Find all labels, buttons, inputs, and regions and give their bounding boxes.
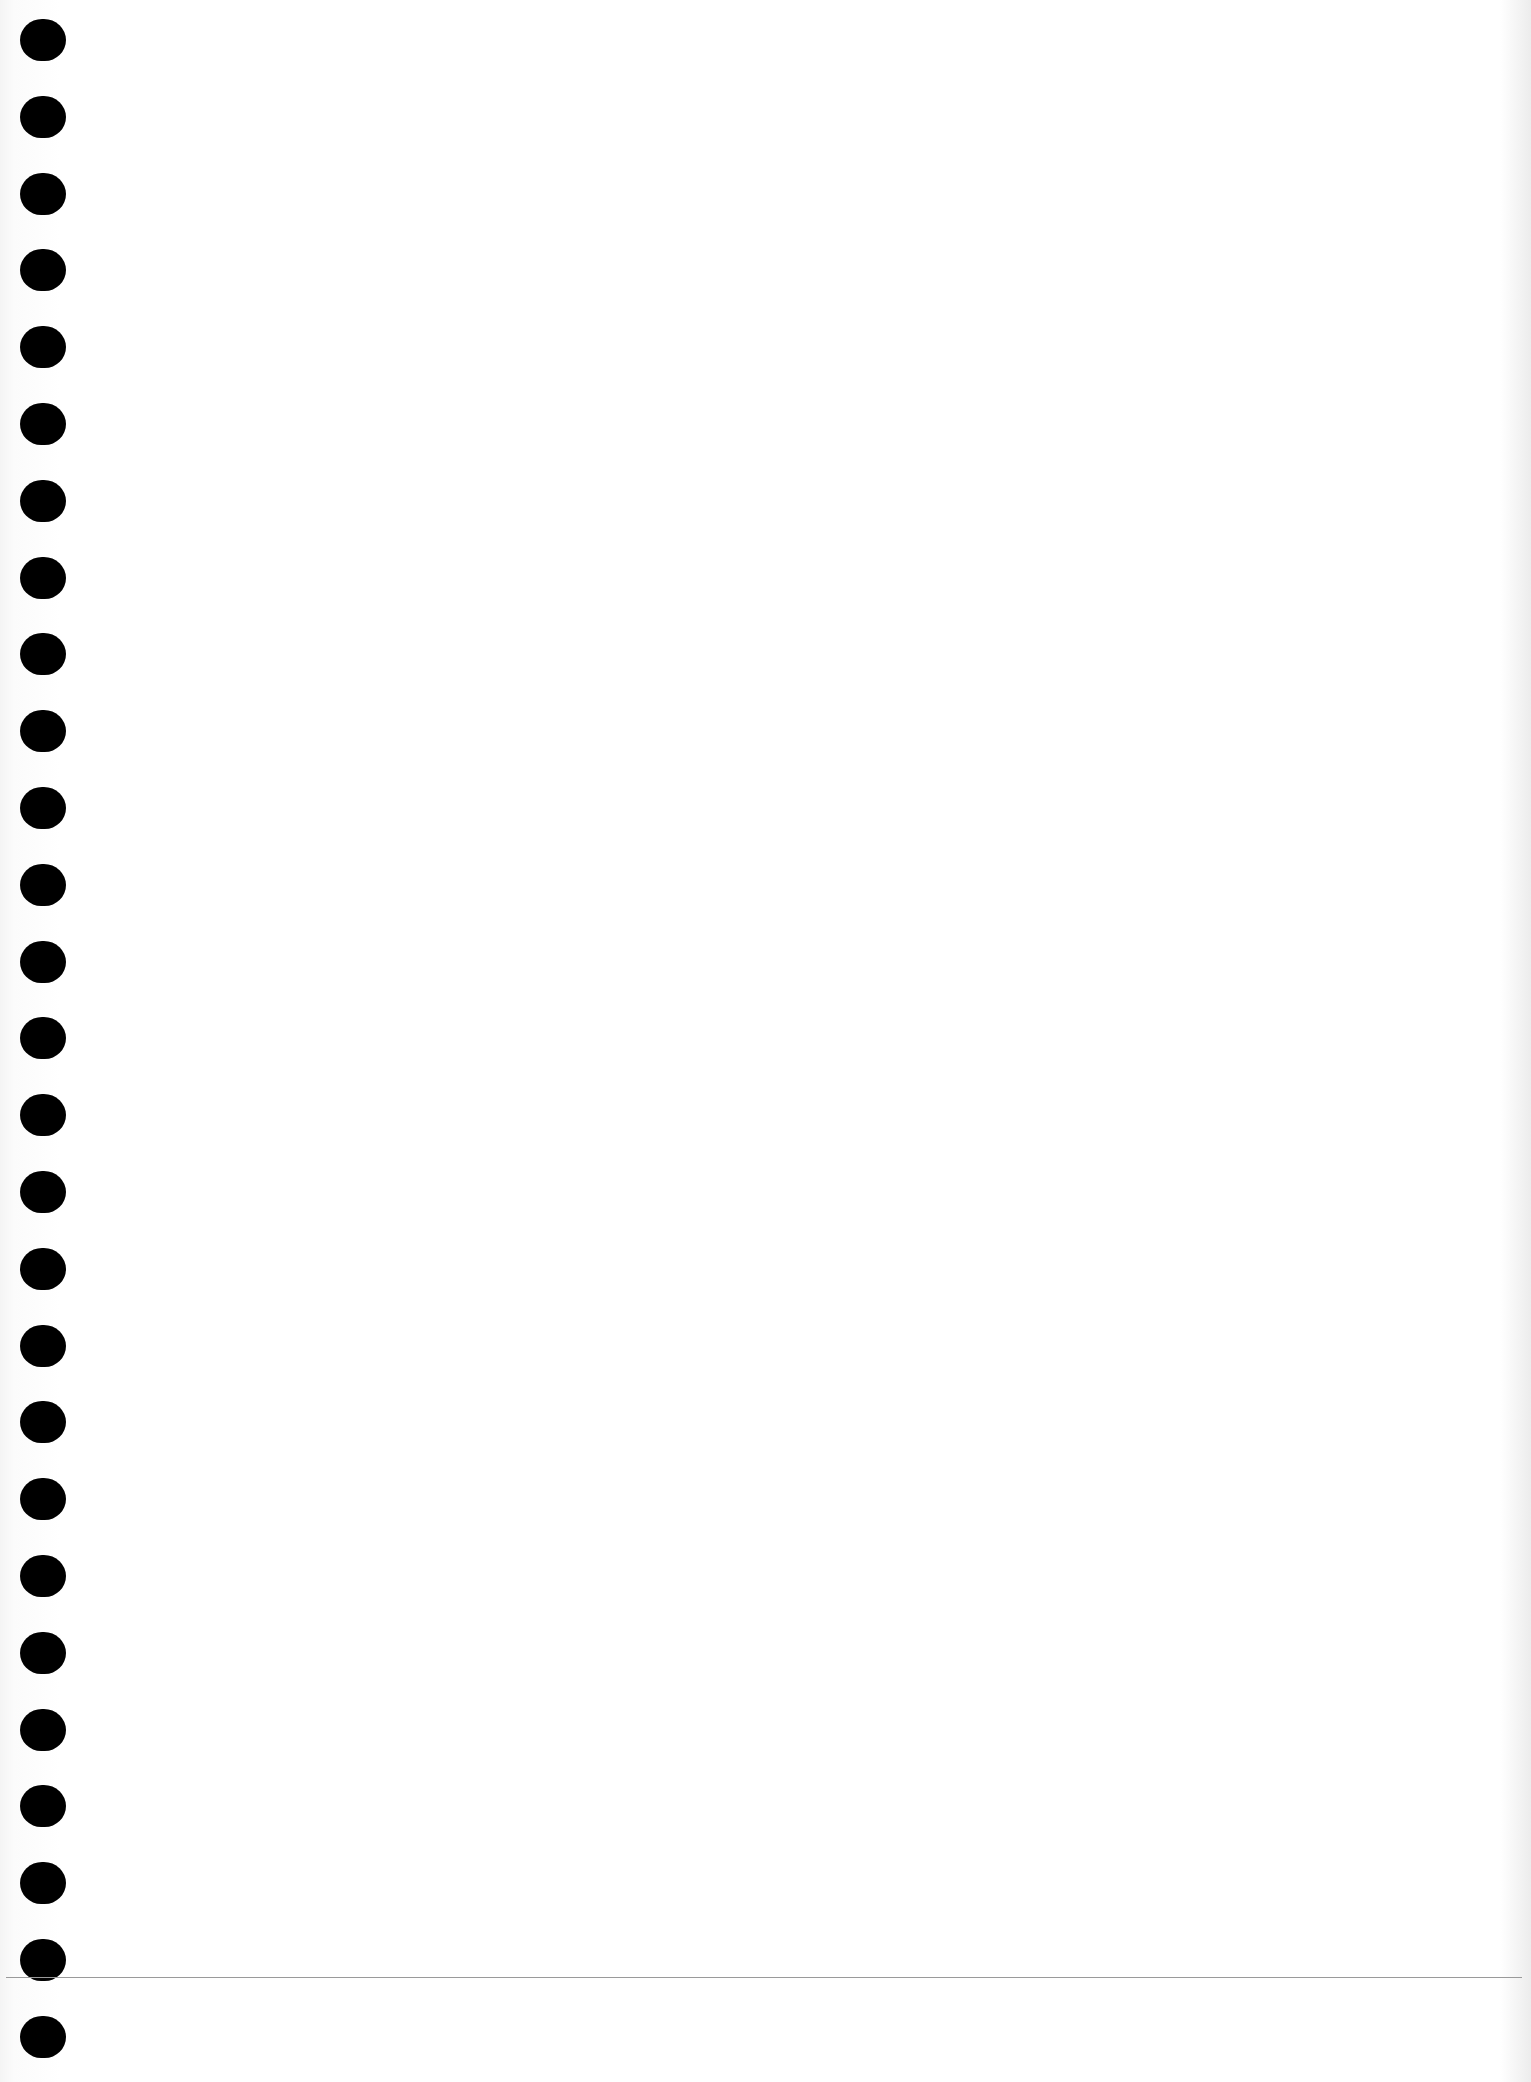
punched-hole: [20, 403, 66, 445]
notebook-sheet: [0, 0, 1531, 2082]
punched-hole: [20, 941, 66, 983]
punched-hole: [20, 1862, 66, 1904]
punched-hole: [20, 19, 66, 61]
punched-hole: [20, 1939, 66, 1981]
punched-hole: [20, 1401, 66, 1443]
punched-hole: [20, 173, 66, 215]
punched-hole: [20, 480, 66, 522]
punched-hole: [20, 864, 66, 906]
punched-holes-column: [0, 0, 80, 2082]
punched-hole: [20, 1632, 66, 1674]
punched-hole: [20, 96, 66, 138]
punched-hole: [20, 633, 66, 675]
punched-hole: [20, 787, 66, 829]
punched-hole: [20, 1248, 66, 1290]
punched-hole: [20, 326, 66, 368]
punched-hole: [20, 1709, 66, 1751]
punched-hole: [20, 1478, 66, 1520]
horizontal-rule-line: [6, 1977, 1522, 1978]
punched-hole: [20, 2016, 66, 2058]
punched-hole: [20, 1555, 66, 1597]
punched-hole: [20, 1785, 66, 1827]
punched-hole: [20, 710, 66, 752]
punched-hole: [20, 1017, 66, 1059]
punched-hole: [20, 249, 66, 291]
punched-hole: [20, 1171, 66, 1213]
punched-hole: [20, 1325, 66, 1367]
punched-hole: [20, 1094, 66, 1136]
punched-hole: [20, 557, 66, 599]
